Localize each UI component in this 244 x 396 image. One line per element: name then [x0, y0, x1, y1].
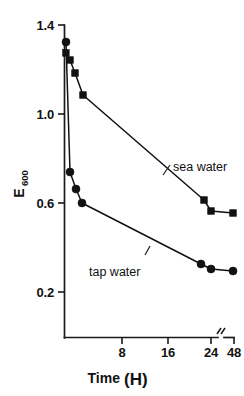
series-label-sea-water: sea water	[173, 160, 227, 174]
data-point-sea-water	[208, 208, 215, 215]
y-axis-title: E 600	[11, 170, 30, 198]
data-point-tap-water	[62, 38, 70, 46]
y-tick-label-1.0: 1.0	[37, 107, 54, 122]
axis-break-mark-1	[217, 328, 221, 334]
chart-figure: 1.4 1.0 0.6 0.2 8 16 24 48 sea water tap…	[0, 0, 244, 396]
x-tick-label-48: 48	[227, 345, 241, 360]
data-point-sea-water	[230, 210, 237, 217]
line-chart: 1.4 1.0 0.6 0.2 8 16 24 48 sea water tap…	[0, 0, 244, 396]
axis-break-mark-2	[221, 328, 225, 334]
data-point-sea-water	[67, 57, 74, 64]
leader-line-tap-water	[145, 246, 150, 255]
x-axis-unit: (H)	[124, 370, 148, 389]
y-tick-label-1.4: 1.4	[37, 18, 55, 33]
x-axis-title: Time	[88, 370, 121, 386]
data-point-tap-water	[197, 260, 205, 268]
x-tick-label-8: 8	[118, 345, 125, 360]
y-tick-label-0.6: 0.6	[37, 196, 54, 211]
data-point-tap-water	[207, 265, 215, 273]
data-point-tap-water	[78, 199, 86, 207]
y-axis-title-subscript: 600	[19, 170, 30, 186]
data-point-sea-water	[201, 197, 208, 204]
data-point-tap-water	[229, 267, 237, 275]
x-tick-label-16: 16	[161, 345, 175, 360]
series-label-tap-water: tap water	[89, 265, 140, 279]
x-tick-label-24: 24	[204, 345, 219, 360]
y-axis-title-base: E	[11, 188, 27, 197]
data-point-sea-water	[80, 92, 87, 99]
series-line-sea-water	[66, 53, 233, 213]
series-line-tap-water	[66, 42, 233, 271]
data-point-sea-water	[72, 70, 79, 77]
data-point-tap-water	[72, 185, 80, 193]
y-tick-label-0.2: 0.2	[37, 285, 54, 300]
data-point-tap-water	[66, 168, 74, 176]
